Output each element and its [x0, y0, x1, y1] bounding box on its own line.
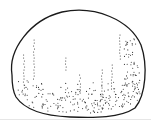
stippled-dome-illustration [0, 0, 151, 126]
stipple-shading [18, 34, 141, 113]
dome-outline [12, 10, 146, 117]
bottom-rule [0, 119, 151, 120]
